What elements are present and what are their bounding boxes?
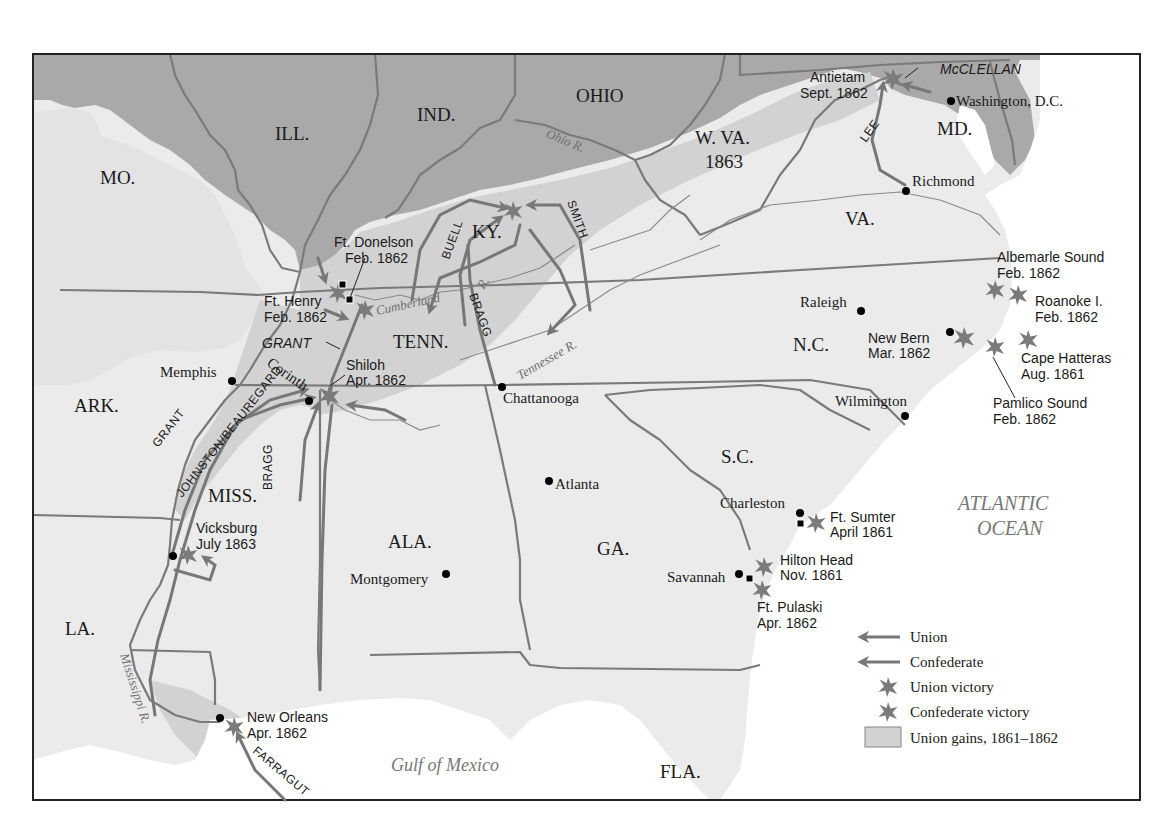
battle-name-roanoke: Roanoke I. [1035, 293, 1103, 309]
battle-date-ft-sumter: April 1861 [830, 524, 893, 540]
label-wva: W. VA. [695, 127, 750, 148]
dot-raleigh [857, 307, 865, 315]
battle-name-cape-hatteras: Cape Hatteras [1021, 350, 1111, 366]
battle-date-roanoke: Feb. 1862 [1035, 309, 1098, 325]
label-grant-tenn: GRANT [262, 335, 312, 351]
battle-name-vicksburg: Vicksburg [196, 520, 257, 536]
label-raleigh: Raleigh [800, 294, 847, 310]
label-nc: N.C. [793, 334, 829, 355]
dot-washington [947, 97, 955, 105]
fort-donelson-marker [346, 296, 353, 303]
dot-new-orleans [216, 714, 224, 722]
label-ga: GA. [597, 538, 629, 559]
label-ind: IND. [417, 104, 456, 125]
label-ohio: OHIO [576, 85, 624, 106]
battle-name-hilton-head: Hilton Head [780, 552, 853, 568]
dot-charleston [796, 509, 804, 517]
battle-name-new-bern: New Bern [868, 330, 929, 346]
label-atlanta: Atlanta [555, 476, 599, 492]
legend-label-confederate-victory: Confederate victory [910, 704, 1030, 720]
battle-date-ft-henry: Feb. 1862 [264, 309, 327, 325]
label-md: MD. [937, 118, 972, 139]
battle-name-ft-henry: Ft. Henry [264, 293, 322, 309]
legend-label-union: Union [910, 629, 948, 645]
label-la: LA. [65, 618, 95, 639]
battle-date-albemarle: Feb. 1862 [997, 265, 1060, 281]
label-washington: Washington, D.C. [956, 93, 1063, 109]
label-charleston: Charleston [720, 495, 785, 511]
dot-memphis [228, 377, 236, 385]
label-savannah: Savannah [667, 569, 726, 585]
battle-name-shiloh: Shiloh [346, 357, 385, 373]
dot-wilmington [901, 412, 909, 420]
fort-henry-marker [339, 281, 346, 288]
battle-date-cape-hatteras: Aug. 1861 [1021, 366, 1085, 382]
dot-richmond [902, 187, 910, 195]
dot-new-bern [946, 328, 954, 336]
label-ill: ILL. [275, 123, 309, 144]
battle-date-ft-donelson: Feb. 1862 [345, 250, 408, 266]
battle-date-antietam: Sept. 1862 [800, 85, 868, 101]
label-wva-year: 1863 [705, 151, 743, 172]
dot-savannah [735, 570, 743, 578]
battle-name-ft-sumter: Ft. Sumter [830, 509, 896, 525]
label-atlantic-2: OCEAN [977, 517, 1044, 539]
battle-name-albemarle: Albemarle Sound [997, 249, 1104, 265]
label-richmond: Richmond [912, 173, 975, 189]
label-atlantic-1: ATLANTIC [956, 492, 1049, 514]
label-memphis: Memphis [160, 364, 217, 380]
battle-name-antietam: Antietam [810, 69, 865, 85]
battle-date-hilton-head: Nov. 1861 [780, 567, 843, 583]
battle-date-vicksburg: July 1863 [196, 536, 256, 552]
dot-vicksburg [169, 552, 177, 560]
label-ala: ALA. [388, 531, 432, 552]
battle-date-pamlico: Feb. 1862 [993, 411, 1056, 427]
label-bragg-miss: BRAGG [261, 444, 275, 490]
battle-date-new-orleans: Apr. 1862 [247, 725, 307, 741]
legend-label-union-victory: Union victory [910, 679, 994, 695]
label-wilmington: Wilmington [835, 393, 907, 409]
battle-date-new-bern: Mar. 1862 [868, 345, 930, 361]
label-mcclellan: McCLELLAN [940, 61, 1022, 77]
battle-name-pamlico: Pamlico Sound [993, 395, 1087, 411]
label-chattanooga: Chattanooga [503, 390, 579, 406]
label-mo: MO. [100, 167, 135, 188]
label-sc: S.C. [721, 446, 754, 467]
label-montgomery: Montgomery [350, 571, 429, 587]
dot-corinth [305, 397, 313, 405]
label-fla: FLA. [660, 761, 701, 782]
battle-name-ft-donelson: Ft. Donelson [334, 234, 413, 250]
legend-label-confederate: Confederate [910, 654, 984, 670]
dot-atlanta [545, 477, 553, 485]
civil-war-map: MO. ILL. IND. OHIO W. VA. 1863 MD. VA. K… [0, 0, 1166, 832]
battle-date-ft-pulaski: Apr. 1862 [757, 615, 817, 631]
label-va: VA. [845, 208, 875, 229]
dot-montgomery [442, 570, 450, 578]
label-ky: KY. [472, 221, 502, 242]
legend-label-union-gains: Union gains, 1861–1862 [910, 730, 1058, 746]
fort-sumter-marker [797, 520, 804, 527]
fort-pulaski-marker [746, 575, 753, 582]
label-tenn: TENN. [393, 331, 448, 352]
label-gulf: Gulf of Mexico [391, 755, 499, 775]
label-miss: MISS. [208, 485, 257, 506]
label-ark: ARK. [74, 395, 119, 416]
battle-date-shiloh: Apr. 1862 [346, 372, 406, 388]
battle-name-new-orleans: New Orleans [247, 709, 328, 725]
legend-swatch-union-gains [865, 727, 901, 747]
battle-name-ft-pulaski: Ft. Pulaski [757, 599, 822, 615]
legend-item-union-gains: Union gains, 1861–1862 [865, 727, 1058, 747]
